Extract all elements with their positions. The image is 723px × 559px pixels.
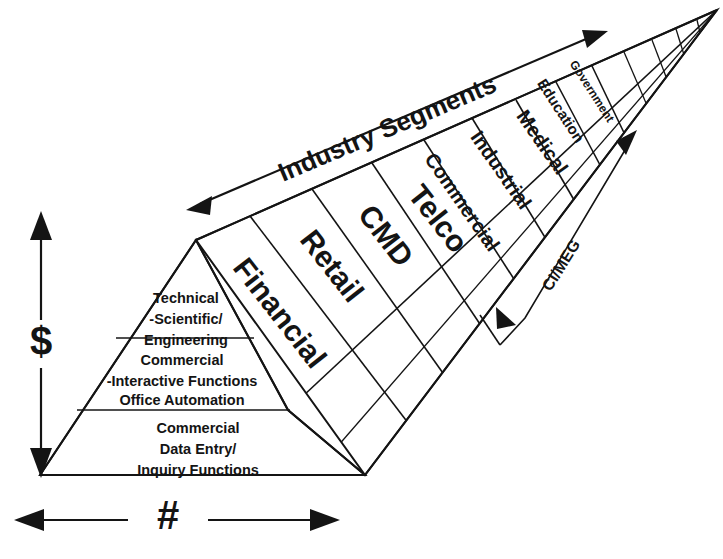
industry-segments-arrow-left-icon [186, 196, 212, 215]
svg-text:-Scientific/: -Scientific/ [149, 311, 222, 327]
dollar-axis-arrow-up-icon [30, 211, 52, 240]
dollar-axis: $ [30, 211, 52, 478]
count-axis: # [14, 493, 340, 537]
count-axis-arrow-right-icon [310, 509, 340, 531]
cimeg-label: CI/MEG [539, 237, 584, 294]
svg-text:Inquiry Functions: Inquiry Functions [137, 462, 259, 478]
count-axis-arrow-left-icon [14, 509, 44, 531]
dollar-axis-label: $ [30, 319, 52, 363]
count-axis-label: # [157, 493, 179, 537]
industry-segment-wedge-diagram: Financial Retail CMD Telco Commercial In… [0, 0, 723, 559]
svg-text:-Interactive Functions: -Interactive Functions [107, 373, 258, 389]
svg-text:Engineering: Engineering [144, 332, 228, 348]
industry-segments-arrow-right-icon [582, 30, 608, 48]
svg-text:Commercial: Commercial [140, 352, 223, 368]
svg-text:Office Automation: Office Automation [119, 392, 244, 408]
tier-label-technical: Technical -Scientific/ Engineering [144, 290, 228, 348]
diagram-canvas: Financial Retail CMD Telco Commercial In… [0, 0, 723, 559]
svg-text:Commercial: Commercial [156, 420, 239, 436]
svg-text:Data Entry/: Data Entry/ [160, 441, 237, 457]
svg-text:Technical: Technical [153, 290, 219, 306]
cimeg-arrow-lower-icon [496, 307, 516, 329]
